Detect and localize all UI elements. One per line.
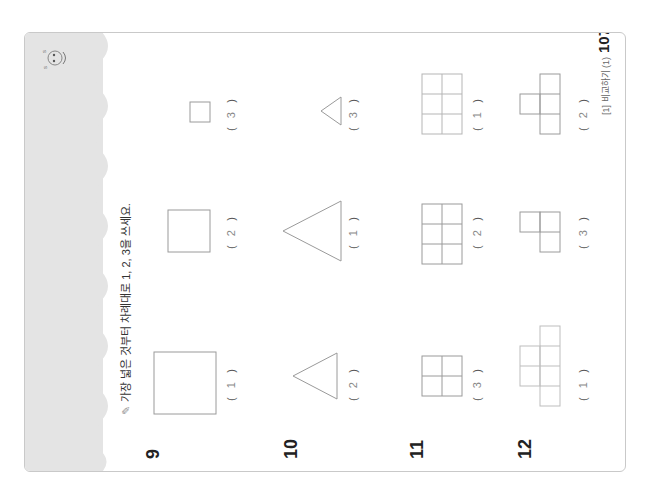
triangle-large: [281, 199, 343, 263]
answer-12-1[interactable]: ( 1 ): [577, 369, 589, 401]
rotated-page: ss ✎가장 넓은 것부터 차례대로 1, 2, 3을 쓰세요. 9 ( 1 )…: [24, 32, 626, 472]
grid-2x2: [421, 355, 463, 397]
answer-9-1[interactable]: ( 1 ): [225, 369, 237, 401]
answer-11-2[interactable]: ( 2 ): [471, 217, 483, 249]
svg-text:s: s: [42, 66, 48, 69]
svg-text:s: s: [41, 50, 47, 53]
scallop-border: [91, 32, 115, 471]
pencil-icon: ✎: [120, 406, 132, 415]
answer-10-2[interactable]: ( 1 ): [347, 217, 359, 249]
problem-number-11: 11: [407, 440, 428, 459]
answer-9-3[interactable]: ( 3 ): [225, 99, 237, 131]
grid-3x2: [421, 73, 463, 135]
polyomino-4: [519, 73, 561, 135]
triangle-small: [319, 95, 343, 127]
grid-3x2-gap: [421, 203, 463, 265]
page-footer: [1] 비교하기 (1)107: [595, 32, 612, 115]
polyomino-5: [519, 325, 561, 407]
square-large: [153, 351, 217, 415]
instruction-text: ✎가장 넓은 것부터 차례대로 1, 2, 3을 쓰세요.: [117, 203, 133, 415]
triangle-medium: [291, 351, 339, 401]
worksheet-page: ss ✎가장 넓은 것부터 차례대로 1, 2, 3을 쓰세요. 9 ( 1 )…: [24, 32, 626, 472]
answer-12-2[interactable]: ( 3 ): [577, 217, 589, 249]
problem-number-9: 9: [143, 449, 164, 459]
square-medium: [167, 209, 211, 253]
square-small: [189, 101, 211, 123]
answer-10-1[interactable]: ( 2 ): [347, 369, 359, 401]
answer-11-1[interactable]: ( 3 ): [471, 369, 483, 401]
answer-10-3[interactable]: ( 3 ): [347, 99, 359, 131]
answer-12-3[interactable]: ( 2 ): [577, 99, 589, 131]
answer-9-2[interactable]: ( 2 ): [225, 217, 237, 249]
mascot-icon: ss: [39, 43, 69, 73]
answer-11-3[interactable]: ( 1 ): [471, 99, 483, 131]
page-number: 107: [595, 32, 612, 53]
polyomino-3: [519, 211, 561, 253]
problem-number-12: 12: [515, 439, 536, 459]
problem-number-10: 10: [281, 439, 302, 459]
